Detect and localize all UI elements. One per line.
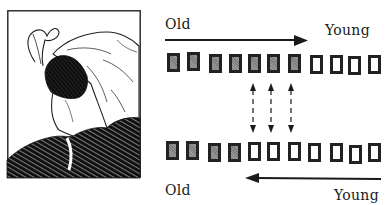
arrow-left-icon <box>245 171 385 185</box>
top-label-old: Old <box>165 17 191 31</box>
top-box-shaded <box>288 54 301 73</box>
double-arrow-icon <box>266 83 276 133</box>
bottom-box-shaded <box>228 143 241 162</box>
top-box-shaded <box>187 52 200 71</box>
bottom-box-shaded <box>186 141 199 160</box>
top-box-shaded <box>248 54 261 73</box>
bottom-box-shaded <box>208 143 221 162</box>
top-box-shaded <box>229 54 242 73</box>
ambiguous-figure-illustration <box>7 10 141 178</box>
bottom-label-old: Old <box>165 183 191 197</box>
arrow-right-icon <box>163 33 313 47</box>
bottom-label-young: Young <box>334 188 379 202</box>
woman-drawing-icon <box>7 10 141 178</box>
top-box-empty <box>348 56 361 75</box>
bottom-box-empty <box>349 145 362 164</box>
bottom-box-empty <box>330 143 343 162</box>
bottom-box-empty <box>308 143 321 162</box>
bottom-box-empty <box>368 143 381 162</box>
top-box-empty <box>368 55 381 74</box>
double-arrow-icon <box>286 83 296 133</box>
bottom-box-empty <box>288 142 301 161</box>
bottom-box-shaded <box>166 141 179 160</box>
bottom-box-empty <box>267 142 280 161</box>
top-box-shaded <box>209 54 222 73</box>
top-box-empty <box>330 55 343 74</box>
top-box-shaded <box>167 53 180 72</box>
top-box-shaded <box>267 54 280 73</box>
double-arrow-icon <box>248 83 258 133</box>
top-label-young: Young <box>325 23 370 37</box>
top-box-empty <box>310 55 323 74</box>
bottom-box-empty <box>248 142 261 161</box>
